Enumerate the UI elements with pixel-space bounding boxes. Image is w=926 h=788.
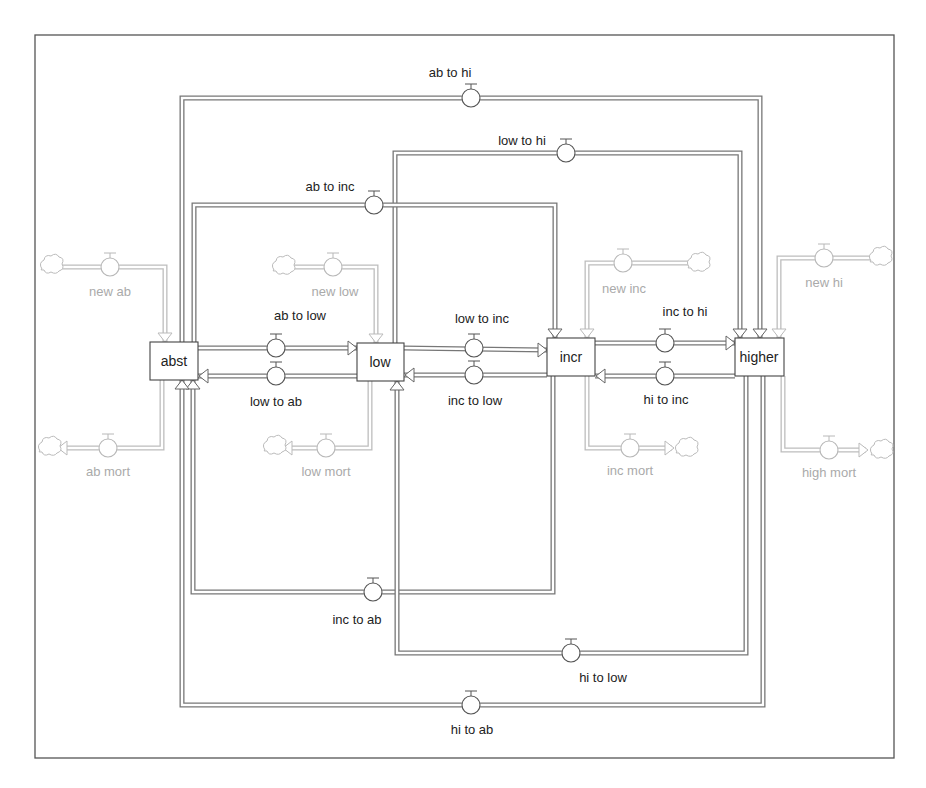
- stock-flow-diagram: abst low incr higher ab to low low to ab…: [0, 0, 926, 788]
- flow-label-inc-mort: inc mort: [607, 463, 654, 478]
- arrowhead-ab-to-hi: [753, 329, 767, 338]
- arrowhead-low-to-hi: [733, 329, 747, 338]
- flow-label-inc-to-ab: inc to ab: [332, 612, 381, 627]
- flow-label-new-low: new low: [312, 284, 360, 299]
- pipe-hi-to-ab[interactable]: [182, 376, 763, 705]
- pipe-new-ab[interactable]: [57, 267, 165, 342]
- flow-label-low-to-ab: low to ab: [250, 394, 302, 409]
- valve-inc-to-ab[interactable]: [364, 578, 382, 601]
- stock-label: abst: [161, 353, 188, 369]
- stock-label: low: [369, 354, 391, 370]
- cloud-low-mort-sink: [263, 435, 286, 454]
- arrowhead-ab-to-low: [348, 341, 357, 355]
- cloud-new-hi-source: [869, 246, 892, 265]
- cloud-new-ab-source: [40, 254, 63, 273]
- valve-low-mort[interactable]: [317, 434, 335, 457]
- stock-low[interactable]: low: [357, 343, 404, 381]
- pipe-hi-to-low[interactable]: [397, 376, 746, 653]
- flow-label-inc-to-hi: inc to hi: [663, 304, 708, 319]
- flow-label-inc-to-low: inc to low: [448, 393, 503, 408]
- pipe-low-mort[interactable]: [285, 381, 370, 448]
- arrowhead-inc-to-low: [405, 368, 414, 382]
- flow-label-hi-to-inc: hi to inc: [644, 392, 689, 407]
- valve-low-to-ab[interactable]: [267, 362, 285, 385]
- arrowhead-inc-mort: [665, 441, 674, 455]
- cloud-high-mort-sink: [870, 439, 893, 458]
- flow-label-ab-to-inc: ab to inc: [305, 179, 355, 194]
- stock-incr[interactable]: incr: [547, 338, 595, 376]
- arrowhead-inc-to-hi: [726, 336, 735, 350]
- arrowhead-ab-to-inc: [548, 329, 562, 338]
- valve-inc-to-low[interactable]: [465, 361, 483, 384]
- valve-inc-mort[interactable]: [621, 434, 639, 457]
- cloud-ab-mort-sink: [38, 436, 61, 455]
- arrowhead-low-to-ab: [199, 369, 208, 383]
- arrowhead-hi-to-inc: [596, 369, 605, 383]
- flow-label-low-to-inc: low to inc: [455, 311, 510, 326]
- stock-label: higher: [740, 349, 779, 365]
- valve-ab-to-low[interactable]: [267, 334, 285, 357]
- flow-label-low-to-hi: low to hi: [498, 133, 546, 148]
- flow-label-hi-to-ab: hi to ab: [451, 722, 494, 737]
- pipe-new-inc[interactable]: [587, 263, 690, 338]
- stock-abst[interactable]: abst: [150, 342, 198, 380]
- stock-higher[interactable]: higher: [735, 338, 784, 376]
- arrowhead-low-to-inc: [538, 343, 547, 357]
- arrowhead-new-inc: [580, 329, 594, 338]
- valve-low-to-hi[interactable]: [557, 139, 575, 162]
- pipe-ab-mort[interactable]: [60, 380, 162, 448]
- flow-label-high-mort: high mort: [802, 465, 857, 480]
- pipe-new-low[interactable]: [290, 267, 376, 343]
- cloud-inc-mort-sink: [675, 437, 698, 456]
- valve-new-low[interactable]: [324, 253, 342, 276]
- arrowhead-new-hi: [772, 329, 786, 338]
- valve-ab-mort[interactable]: [99, 434, 117, 457]
- arrowhead-high-mort: [859, 443, 868, 457]
- arrowhead-hi-to-low: [390, 381, 404, 390]
- arrowhead-new-low: [369, 334, 383, 343]
- valve-ab-to-hi[interactable]: [462, 84, 480, 107]
- flow-label-low-mort: low mort: [301, 464, 351, 479]
- pipe-high-mort[interactable]: [783, 376, 866, 450]
- valve-ab-to-inc[interactable]: [365, 191, 383, 214]
- pipe-new-hi[interactable]: [779, 258, 872, 338]
- flow-label-new-hi: new hi: [805, 275, 843, 290]
- valve-hi-to-ab[interactable]: [462, 691, 480, 714]
- valve-hi-to-low[interactable]: [562, 639, 580, 662]
- valve-new-ab[interactable]: [101, 253, 119, 276]
- arrowhead-new-ab: [158, 333, 172, 342]
- valve-new-hi[interactable]: [815, 244, 833, 267]
- pipe-inc-to-ab[interactable]: [193, 376, 553, 592]
- valve-hi-to-inc[interactable]: [656, 362, 674, 385]
- stock-label: incr: [560, 349, 583, 365]
- flow-label-hi-to-low: hi to low: [579, 670, 627, 685]
- valve-inc-to-hi[interactable]: [656, 329, 674, 352]
- flow-label-new-inc: new inc: [602, 281, 647, 296]
- arrowhead-hi-to-ab: [175, 380, 189, 389]
- flow-label-ab-to-low: ab to low: [274, 308, 327, 323]
- cloud-new-low-source: [272, 255, 295, 274]
- valve-low-to-inc[interactable]: [465, 334, 483, 357]
- cloud-new-inc-source: [687, 252, 710, 271]
- flow-label-ab-mort: ab mort: [86, 464, 130, 479]
- valve-high-mort[interactable]: [820, 436, 838, 459]
- flow-label-ab-to-hi: ab to hi: [429, 65, 472, 80]
- flow-label-new-ab: new ab: [89, 284, 131, 299]
- valve-new-inc[interactable]: [614, 249, 632, 272]
